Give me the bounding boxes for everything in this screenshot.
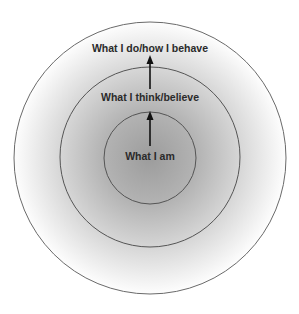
middle-ring-label: What I think/believe	[101, 91, 199, 103]
concentric-circles-diagram: What I do/how I behave What I think/beli…	[0, 0, 299, 314]
outer-ring-label: What I do/how I behave	[92, 42, 208, 54]
inner-ring-label: What I am	[125, 150, 175, 162]
